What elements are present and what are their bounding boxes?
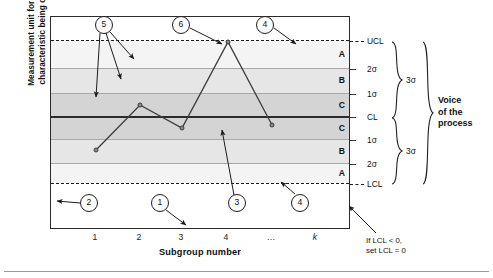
x-tick-k: k xyxy=(302,232,328,242)
data-point-4 xyxy=(226,40,231,45)
voice-of-process-label: Voice of the process xyxy=(438,95,473,130)
callout-5[interactable]: 5 xyxy=(95,16,113,34)
two-sigma-upper-tick xyxy=(350,69,356,70)
figure-bottom-rule xyxy=(4,271,489,272)
brace-voice-of-process xyxy=(421,41,435,185)
data-point-3 xyxy=(180,126,185,131)
one-sigma-upper-tick xyxy=(350,94,356,95)
y-axis-title: Measurement unit for quality characteris… xyxy=(27,0,48,126)
brace-lower-3sigma xyxy=(390,117,404,185)
y-axis-title-line2: characteristic being charted xyxy=(38,0,49,126)
callout-3[interactable]: 3 xyxy=(228,194,246,212)
callout-2[interactable]: 2 xyxy=(80,194,98,212)
lcl-tick xyxy=(350,184,364,185)
brace-lower-3sigma-label: 3σ xyxy=(406,146,416,156)
callout-4-top[interactable]: 4 xyxy=(256,16,274,34)
x-tick-1: 1 xyxy=(82,232,108,242)
one-sigma-upper-label: 1σ xyxy=(367,89,377,99)
callout-6[interactable]: 6 xyxy=(172,16,190,34)
voice-line-3: process xyxy=(438,118,473,130)
brace-upper-3sigma-label: 3σ xyxy=(406,75,416,85)
ucl-label: UCL xyxy=(367,36,384,46)
lcl-note: If LCL < 0, set LCL = 0 xyxy=(366,236,406,255)
two-sigma-lower-tick xyxy=(350,164,356,165)
x-tick-4: 4 xyxy=(213,232,239,242)
ucl-tick xyxy=(350,41,364,42)
x-tick-3: 3 xyxy=(168,232,194,242)
voice-line-1: Voice xyxy=(438,95,473,107)
lcl-label: LCL xyxy=(367,179,382,189)
data-point-5 xyxy=(270,123,275,128)
cl-label: CL xyxy=(367,112,378,122)
x-axis-title: Subgroup number xyxy=(50,247,350,257)
control-chart-figure: Measurement unit for quality characteris… xyxy=(0,0,493,278)
y-axis-title-line1: Measurement unit for quality xyxy=(27,0,38,126)
callout-1[interactable]: 1 xyxy=(151,194,169,212)
one-sigma-lower-tick xyxy=(350,140,356,141)
data-point-2 xyxy=(138,103,143,108)
x-tick-ellipsis: … xyxy=(258,232,284,242)
lcl-note-line1: If LCL < 0, xyxy=(366,236,406,246)
one-sigma-lower-label: 1σ xyxy=(367,135,377,145)
voice-line-2: of the xyxy=(438,107,473,119)
callout-4-bottom[interactable]: 4 xyxy=(291,194,309,212)
two-sigma-upper-label: 2σ xyxy=(367,64,377,74)
x-tick-2: 2 xyxy=(126,232,152,242)
cl-tick xyxy=(350,117,356,118)
two-sigma-lower-label: 2σ xyxy=(367,159,377,169)
data-point-1 xyxy=(94,148,99,153)
brace-upper-3sigma xyxy=(390,41,404,119)
lcl-note-line2: set LCL = 0 xyxy=(366,246,406,256)
